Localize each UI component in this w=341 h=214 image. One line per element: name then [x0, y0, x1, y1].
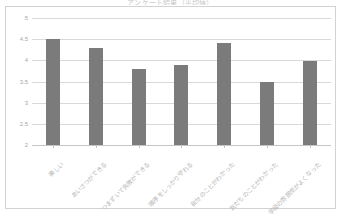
bar-slot — [75, 18, 118, 145]
x-axis-tick-mark — [224, 145, 225, 148]
plot-area: 22.533.544.55 楽しいあいさつができるつまずいて失敗ができる順序をし… — [32, 18, 331, 145]
x-axis-tick-label: 自分のことがわかった — [188, 160, 236, 208]
bar — [132, 69, 146, 145]
bar-slot — [160, 18, 203, 145]
bar — [217, 43, 231, 145]
x-axis-tick-mark — [96, 145, 97, 148]
y-axis-tick-label: 4 — [25, 57, 28, 63]
x-axis-tick-mark — [310, 145, 311, 148]
y-axis-tick-label: 5 — [25, 15, 28, 21]
bar — [260, 82, 274, 145]
bar — [303, 61, 317, 145]
x-axis-tick-mark — [53, 145, 54, 148]
chart-frame: 22.533.544.55 楽しいあいさつができるつまずいて失敗ができる順序をし… — [5, 6, 336, 209]
bar-slot — [32, 18, 75, 145]
bar — [89, 48, 103, 145]
x-axis-tick-mark — [181, 145, 182, 148]
x-axis-tick-label: 楽しい — [47, 160, 66, 179]
x-axis-tick-mark — [139, 145, 140, 148]
y-axis-tick-label: 3.5 — [20, 79, 28, 85]
y-axis-tick-label: 2.5 — [20, 121, 28, 127]
x-axis-tick-label: 順序をしっかり守れる — [146, 160, 194, 208]
bar — [174, 65, 188, 145]
y-axis-tick-label: 4.5 — [20, 36, 28, 42]
bar-slot — [288, 18, 331, 145]
x-axis-tick-label: あいさつができる — [69, 160, 109, 200]
chart-title: アンケート結果（平均値） — [0, 0, 341, 5]
y-axis-tick-label: 3 — [25, 100, 28, 106]
bar-slot — [117, 18, 160, 145]
x-axis-tick-mark — [267, 145, 268, 148]
bar-slot — [246, 18, 289, 145]
bar-chart: アンケート結果（平均値） 22.533.544.55 楽しいあいさつができるつま… — [0, 0, 341, 214]
bar-series — [32, 18, 331, 145]
y-axis-tick-label: 2 — [25, 142, 28, 148]
bar-slot — [203, 18, 246, 145]
bar — [46, 39, 60, 145]
